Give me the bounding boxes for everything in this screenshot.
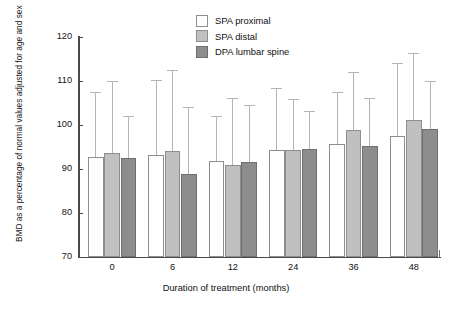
bar-spa-proximal-48 — [390, 136, 406, 257]
error-bar-cap — [107, 81, 118, 82]
legend-item: SPA distal — [196, 29, 289, 45]
bar-dpa-lumbar-spine-24 — [302, 149, 318, 257]
y-tick-label: 70 — [36, 251, 72, 261]
bar-spa-proximal-36 — [329, 144, 345, 257]
x-axis-title: Duration of treatment (months) — [0, 283, 452, 293]
bar-spa-proximal-24 — [269, 150, 285, 257]
error-bar-cap — [392, 63, 403, 64]
error-bar-cap — [288, 99, 299, 100]
x-tick-label: 0 — [92, 262, 132, 272]
y-tick-label: 90 — [36, 163, 72, 173]
error-bar-cap — [408, 53, 419, 54]
error-bar-stem — [249, 105, 250, 161]
y-tick-label: 80 — [36, 207, 72, 217]
legend-label: SPA distal — [215, 31, 257, 42]
legend-item: DPA lumbar spine — [196, 44, 289, 60]
bar-spa-distal-24 — [285, 150, 301, 257]
y-tick-mark — [78, 257, 83, 258]
legend-swatch-icon — [196, 15, 208, 27]
error-bar-stem — [276, 88, 277, 149]
bar-spa-proximal-6 — [148, 155, 164, 257]
error-bar-cap — [123, 116, 134, 117]
bar-spa-distal-48 — [406, 120, 422, 257]
bar-dpa-lumbar-spine-6 — [181, 174, 197, 257]
plot-area — [78, 37, 440, 257]
x-tick-label: 36 — [334, 262, 374, 272]
error-bar-cap — [348, 72, 359, 73]
error-bar-stem — [309, 111, 310, 148]
error-bar-cap — [90, 92, 101, 93]
chart-legend: SPA proximalSPA distalDPA lumbar spine — [196, 13, 289, 60]
error-bar-cap — [227, 98, 238, 99]
error-bar-cap — [211, 116, 222, 117]
y-tick-label: 100 — [36, 119, 72, 129]
error-bar-cap — [183, 107, 194, 108]
error-bar-cap — [271, 88, 282, 89]
error-bar-stem — [216, 116, 217, 161]
error-bar-stem — [232, 98, 233, 165]
error-bar-stem — [112, 81, 113, 153]
error-bar-stem — [337, 92, 338, 145]
error-bar-stem — [397, 63, 398, 136]
error-bar-cap — [332, 92, 343, 93]
x-tick-label: 24 — [273, 262, 313, 272]
bar-spa-distal-36 — [346, 130, 362, 257]
bar-dpa-lumbar-spine-0 — [121, 158, 137, 257]
error-bar-stem — [413, 53, 414, 120]
error-bar-cap — [425, 81, 436, 82]
y-axis-title: BMD as a percentage of normal values adj… — [14, 0, 26, 249]
bar-dpa-lumbar-spine-12 — [241, 162, 257, 257]
y-axis-title-wrap: BMD as a percentage of normal values adj… — [0, 0, 34, 270]
error-bar-cap — [151, 80, 162, 81]
x-tick-label: 6 — [153, 262, 193, 272]
bar-spa-distal-12 — [225, 165, 241, 257]
error-bar-stem — [369, 98, 370, 146]
bar-spa-distal-0 — [104, 153, 120, 257]
bar-dpa-lumbar-spine-36 — [362, 146, 378, 257]
bar-spa-proximal-12 — [209, 161, 225, 257]
legend-label: SPA proximal — [215, 15, 271, 26]
error-bar-stem — [188, 107, 189, 174]
error-bar-cap — [244, 105, 255, 106]
legend-swatch-icon — [196, 30, 208, 42]
x-tick-label: 12 — [213, 262, 253, 272]
legend-label: DPA lumbar spine — [215, 46, 289, 57]
error-bar-stem — [430, 81, 431, 129]
y-tick-label: 110 — [36, 75, 72, 85]
error-bar-stem — [172, 70, 173, 150]
error-bar-cap — [364, 98, 375, 99]
bar-spa-proximal-0 — [88, 157, 104, 257]
error-bar-stem — [156, 80, 157, 155]
error-bar-stem — [128, 116, 129, 158]
error-bar-stem — [353, 72, 354, 130]
legend-item: SPA proximal — [196, 13, 289, 29]
error-bar-stem — [293, 99, 294, 150]
bmd-bar-chart: BMD as a percentage of normal values adj… — [0, 0, 452, 311]
legend-swatch-icon — [196, 46, 208, 58]
bar-spa-distal-6 — [165, 151, 181, 257]
error-bar-cap — [304, 111, 315, 112]
y-tick-label: 120 — [36, 31, 72, 41]
bar-dpa-lumbar-spine-48 — [422, 129, 438, 257]
error-bar-stem — [95, 92, 96, 156]
error-bar-cap — [167, 70, 178, 71]
x-tick-label: 48 — [394, 262, 434, 272]
